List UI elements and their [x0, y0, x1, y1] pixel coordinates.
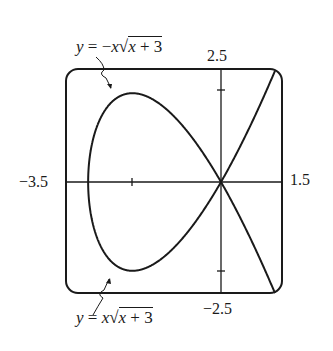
radicand: x + 3: [128, 36, 162, 56]
eq-var-y: y: [76, 37, 84, 56]
arrowhead-top: [107, 84, 112, 89]
x-min-label: −3.5: [19, 173, 48, 191]
eq-equals: = −: [84, 37, 112, 56]
eq-var-x: x: [128, 37, 136, 56]
eq-constant: + 3: [136, 37, 163, 56]
radicand: x + 3: [119, 307, 153, 327]
upper-branch-equation-label: y = −x√x + 3: [76, 37, 162, 57]
upper-left-branch-curve: [88, 93, 275, 293]
viewing-window-frame: [66, 69, 282, 293]
eq-var-x: x: [111, 37, 119, 56]
sqrt-symbol: √: [119, 37, 128, 56]
eq-var-x: x: [119, 308, 127, 327]
y-min-label: −2.5: [203, 300, 232, 318]
eq-constant: + 3: [126, 308, 153, 327]
x-max-label: 1.5: [290, 171, 310, 189]
y-max-label: 2.5: [207, 47, 227, 65]
eq-var-y: y: [76, 308, 84, 327]
annotation-arrow-top: [96, 57, 111, 88]
lower-branch-equation-label: y = x√x + 3: [76, 308, 153, 328]
eq-equals: =: [84, 308, 102, 327]
plot-area: [0, 0, 333, 351]
sqrt-symbol: √: [109, 308, 118, 327]
lower-left-branch-curve: [88, 71, 275, 271]
